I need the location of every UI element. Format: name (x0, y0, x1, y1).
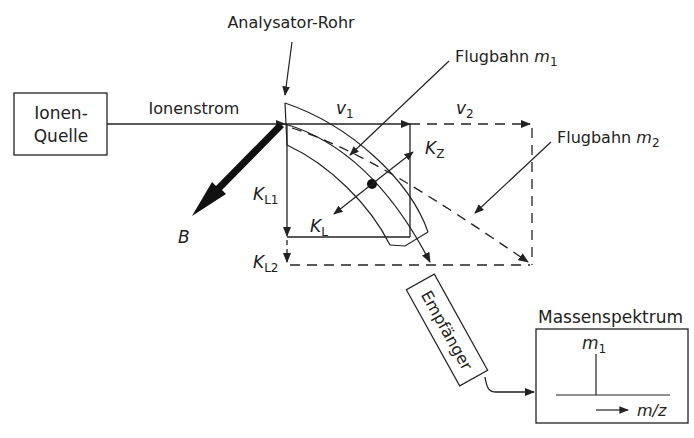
force-kl1-label: KL1 (253, 184, 278, 207)
force-kl-arrow (334, 184, 372, 214)
analyzer-tube-pointer-arrow (285, 42, 292, 95)
mass-spectrometer-diagram: Ionen- Quelle Ionenstrom Analysator-Rohr… (0, 0, 694, 438)
force-kl2-label: KL2 (253, 252, 278, 275)
analyzer-tube (285, 103, 430, 262)
ion-source-label-line1: Ionen- (34, 103, 88, 123)
magnetic-field-label: B (178, 227, 190, 247)
force-kl-label: KL (310, 216, 328, 239)
ion-stream-label: Ionenstrom (149, 99, 240, 118)
mass-spectrum-title: Massenspektrum (538, 307, 683, 327)
ion-source-box: Ionen- Quelle (14, 93, 107, 155)
velocity-v2-label: v2 (456, 98, 474, 121)
trajectory-m2-pointer-arrow (475, 142, 551, 213)
ion-source-label-line2: Quelle (34, 126, 89, 146)
spectrum-peak-label: m1 (582, 333, 606, 356)
force-kz-label: KZ (425, 138, 444, 161)
force-kz-arrow (372, 152, 413, 184)
trajectory-m2-label: Flugbahn m2 (557, 128, 660, 150)
analyzer-tube-label: Analysator-Rohr (227, 13, 355, 32)
receiver-output-arrow (485, 377, 534, 392)
ion-stream-arrow: Ionenstrom (107, 99, 285, 124)
magnetic-field-arrow: B (178, 123, 284, 247)
mz-axis-label: m/z (637, 401, 667, 420)
receiver-box: Empfänger (406, 274, 487, 386)
mass-spectrum-box: Massenspektrum m1 m/z (536, 307, 688, 423)
velocity-v1-label: v1 (336, 98, 354, 121)
trajectory-m1-label: Flugbahn m1 (455, 47, 558, 69)
